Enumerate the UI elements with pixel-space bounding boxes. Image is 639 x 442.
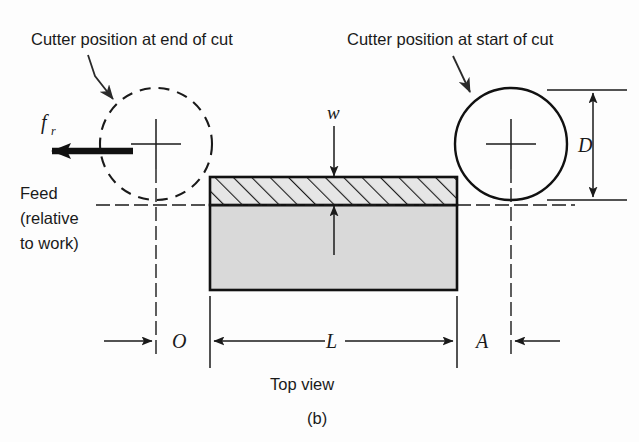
slab-milling-top-view-diagram: Cutter position at end of cut Cutter pos… xyxy=(0,0,639,442)
label-feed-line1: Feed xyxy=(20,184,58,202)
leader-line-end-of-cut xyxy=(88,55,113,99)
symbol-width-of-cut: w xyxy=(327,102,340,123)
cut-band-hatched xyxy=(210,177,457,205)
view-label: Top view xyxy=(270,375,334,393)
symbol-approach: A xyxy=(474,330,489,352)
symbol-feed-rate: f xyxy=(41,111,49,134)
annotation-end-of-cut: Cutter position at end of cut xyxy=(31,30,233,48)
symbol-length-of-cut: L xyxy=(325,330,337,352)
figure-caption: (b) xyxy=(307,409,327,427)
annotation-start-of-cut: Cutter position at start of cut xyxy=(347,30,554,48)
label-feed-line3: to work) xyxy=(20,234,79,252)
symbol-overtravel: O xyxy=(172,330,186,352)
symbol-cutter-diameter: D xyxy=(577,134,593,156)
label-feed-line2: (relative xyxy=(20,209,79,227)
leader-line-start-of-cut xyxy=(453,56,470,92)
figure-container: Cutter position at end of cut Cutter pos… xyxy=(0,0,639,442)
symbol-feed-rate-subscript: r xyxy=(51,124,56,138)
